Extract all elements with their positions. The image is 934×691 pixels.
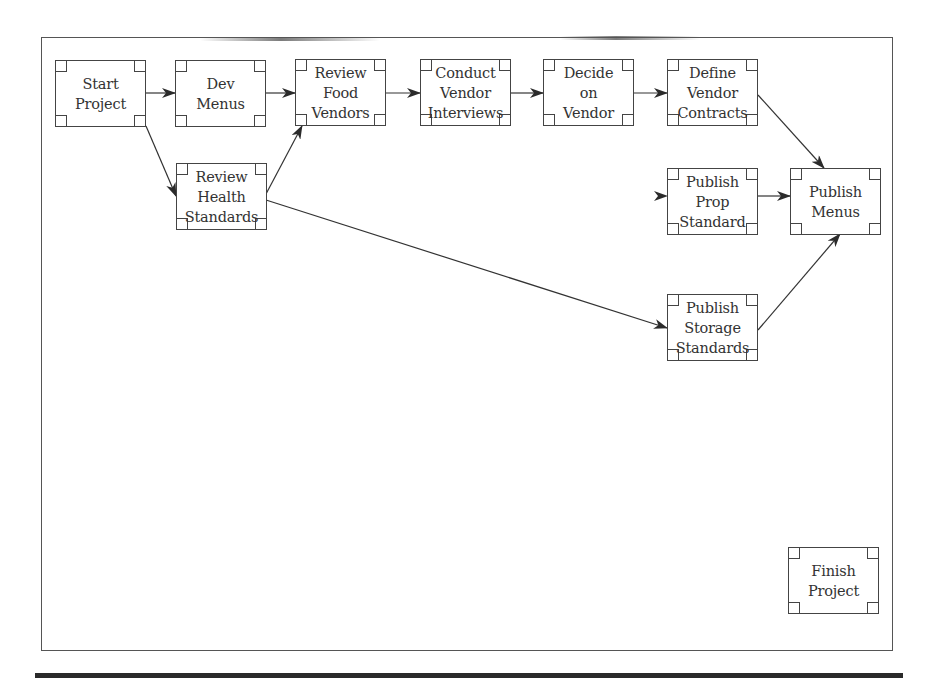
corner-marker [867,602,879,614]
corner-marker [790,223,802,235]
node-label: Conduct Vendor Interviews [428,63,504,123]
corner-marker [134,115,146,127]
edge-publish-storage-to-publish-menus [758,234,840,330]
node-label: Dev Menus [196,74,245,114]
node-review-health-standards[interactable]: Review Health Standards [176,163,267,230]
node-define-vendor-contracts[interactable]: Define Vendor Contracts [667,59,758,126]
corner-marker [746,114,758,126]
node-label: Publish Storage Standards [676,298,750,358]
corner-marker [746,168,758,180]
node-review-food-vendors[interactable]: Review Food Vendors [295,59,386,126]
corner-marker [622,59,634,71]
corner-marker [175,60,187,72]
node-dev-menus[interactable]: Dev Menus [175,60,266,127]
corner-marker [622,114,634,126]
node-decide-on-vendor[interactable]: Decide on Vendor [543,59,634,126]
node-publish-menus[interactable]: Publish Menus [790,168,881,235]
node-conduct-vendor-interviews[interactable]: Conduct Vendor Interviews [420,59,511,126]
corner-marker [134,60,146,72]
node-label: Decide on Vendor [563,63,614,123]
bottom-rule [35,673,903,678]
corner-marker [295,114,307,126]
corner-marker [543,114,555,126]
node-label: Review Food Vendors [311,63,369,123]
corner-marker [175,115,187,127]
corner-marker [867,547,879,559]
node-publish-storage-standards[interactable]: Publish Storage Standards [667,294,758,361]
corner-marker [254,115,266,127]
corner-marker [788,602,800,614]
corner-marker [667,168,679,180]
corner-marker [543,59,555,71]
node-label: Define Vendor Contracts [677,63,747,123]
corner-marker [667,223,679,235]
corner-marker [55,115,67,127]
corner-marker [869,223,881,235]
node-label: Publish Prop Standard [679,172,745,232]
corner-marker [788,547,800,559]
diagram-canvas: Start Project Dev Menus Review Food Vend… [0,0,934,691]
node-label: Start Project [75,74,126,114]
corner-marker [295,59,307,71]
edge-review-health-to-review-food [266,126,302,194]
corner-marker [746,223,758,235]
node-label: Review Health Standards [185,167,259,227]
corner-marker [869,168,881,180]
corner-marker [374,59,386,71]
corner-marker [55,60,67,72]
corner-marker [254,60,266,72]
node-finish-project[interactable]: Finish Project [788,547,879,614]
corner-marker [746,59,758,71]
node-publish-prop-standard[interactable]: Publish Prop Standard [667,168,758,235]
node-start-project[interactable]: Start Project [55,60,146,127]
corner-marker [790,168,802,180]
node-label: Finish Project [808,561,859,601]
corner-marker [374,114,386,126]
edge-start-to-review-health [146,126,176,196]
edge-review-health-to-publish-storage [266,200,667,328]
edge-define-to-publish-menus [758,95,824,168]
node-label: Publish Menus [809,182,862,222]
